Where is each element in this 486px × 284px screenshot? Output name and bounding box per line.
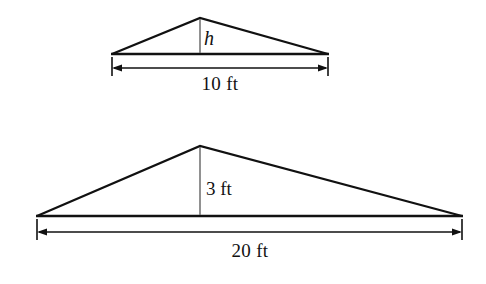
large-dim-arrow-left-icon (37, 228, 47, 235)
geometry-figure: h 10 ft 3 ft 20 ft (0, 0, 486, 284)
large-triangle-base-label: 20 ft (203, 240, 297, 262)
small-dim-arrow-right-icon (318, 64, 328, 71)
large-dim-arrow-right-icon (452, 228, 462, 235)
small-triangle-base-label: 10 ft (173, 73, 267, 95)
large-triangle-group (36, 146, 463, 216)
large-base-dimension-group (37, 219, 462, 240)
small-dim-arrow-left-icon (112, 64, 122, 71)
small-triangle-sides (112, 18, 328, 54)
large-triangle-height-label: 3 ft (206, 178, 232, 200)
small-triangle-group (111, 18, 329, 54)
small-triangle-height-label: h (204, 27, 214, 50)
large-triangle-sides (37, 146, 462, 216)
